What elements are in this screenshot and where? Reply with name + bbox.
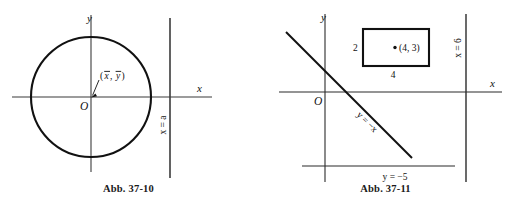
origin-label: O xyxy=(80,100,89,112)
rectangle-center-point-label: (4, 3) xyxy=(399,43,420,54)
centroid-x-symbol: x xyxy=(104,71,110,81)
vertical-line-label-x-equals-6: x = 6 xyxy=(453,38,463,58)
centroid-y-symbol: y xyxy=(115,71,121,81)
figure-right-caption: Abb. 37-11 xyxy=(257,183,514,194)
centroid-close-paren: ) xyxy=(122,71,125,82)
origin-label: O xyxy=(314,95,323,107)
centroid-leader-line xyxy=(93,80,100,96)
centroid-separator: , xyxy=(110,71,112,81)
rectangle-height-dimension-label: 2 xyxy=(353,43,358,53)
horizontal-line-label-y-equals-minus-5: y = −5 xyxy=(383,172,408,182)
figure-abb-37-10: x y O ( x , y ) x = a Abb. 37-10 xyxy=(0,0,257,214)
y-axis-label: y xyxy=(320,11,326,23)
figure-abb-37-11: x y O (4, 3) 2 4 y = −x y = −5 x = 6 Abb… xyxy=(257,0,514,214)
figure-left-canvas: x y O ( x , y ) x = a xyxy=(0,0,257,214)
vertical-line-label-x-equals-a: x = a xyxy=(158,115,168,135)
figure-sheet: x y O ( x , y ) x = a Abb. 37-10 xyxy=(0,0,514,214)
diagonal-line-y-equals-minus-x xyxy=(286,32,412,158)
y-axis-label: y xyxy=(86,12,92,24)
centroid-open-paren: ( xyxy=(100,71,103,82)
rectangle-width-dimension-label: 4 xyxy=(391,70,396,80)
figure-right-canvas: x y O (4, 3) 2 4 y = −x y = −5 x = 6 xyxy=(257,0,514,214)
centroid-label: ( x , y ) xyxy=(100,71,125,82)
rectangle-center-point xyxy=(393,46,396,49)
x-axis-label: x xyxy=(489,77,495,89)
figure-left-caption: Abb. 37-10 xyxy=(0,183,257,194)
x-axis-label: x xyxy=(196,82,202,94)
